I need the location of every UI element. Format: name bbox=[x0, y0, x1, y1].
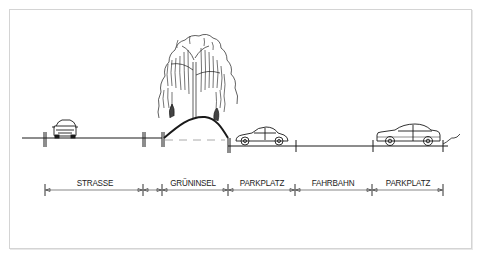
label-gruninsel: GRÜNINSEL bbox=[170, 178, 216, 188]
label-parkplatz-1: PARKPLATZ bbox=[240, 178, 284, 188]
car-side-view-coupe-icon bbox=[377, 124, 440, 146]
label-parkplatz-2: PARKPLATZ bbox=[386, 178, 430, 188]
car-front-view-icon bbox=[52, 120, 78, 138]
label-fahrbahn: FAHRBAHN bbox=[312, 178, 355, 188]
birch-tree-icon bbox=[158, 34, 238, 121]
cross-section-drawing bbox=[0, 0, 484, 259]
car-side-view-porsche-icon bbox=[236, 127, 288, 145]
label-strasse: STRASSE bbox=[77, 178, 114, 188]
